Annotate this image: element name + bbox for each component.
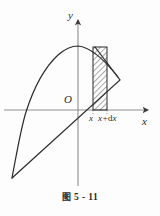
tick-label-x: x — [89, 114, 93, 123]
origin-label: O — [64, 94, 72, 105]
figure-plot — [0, 0, 160, 216]
figure-caption-cjk: 图 — [62, 192, 71, 202]
y-axis-label: y — [68, 10, 73, 21]
figure-caption: 图 5 - 11 — [0, 190, 160, 203]
tick-label-x-plus-dx: x+dx — [98, 114, 117, 123]
figure-container: y x O x x+dx 图 5 - 11 — [0, 0, 160, 216]
differential-strip-fill — [93, 47, 107, 110]
x-axis-label: x — [142, 116, 147, 127]
tick-label-x-plus-dx-base: x+ — [98, 113, 108, 123]
tick-label-dx-var: x — [113, 113, 117, 123]
figure-caption-number: 5 - 11 — [74, 192, 98, 202]
